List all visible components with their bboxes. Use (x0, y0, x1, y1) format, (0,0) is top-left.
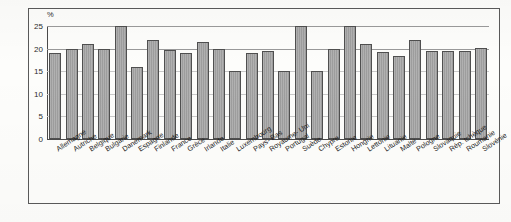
y-tick-label: 20 (34, 44, 43, 53)
bar-slot (325, 26, 341, 139)
bar-slot (178, 26, 194, 139)
bar-slot (145, 26, 161, 139)
bar-slot (80, 26, 96, 139)
bar (311, 71, 323, 139)
bar-slot (47, 26, 63, 139)
bar-slot (391, 26, 407, 139)
bar (213, 49, 225, 139)
bar (49, 53, 61, 139)
bar-slot (473, 26, 489, 139)
bar-slot (407, 26, 423, 139)
bar-slot (227, 26, 243, 139)
bar (360, 44, 372, 139)
x-label-slot: Lettonie (358, 141, 374, 201)
bar (82, 44, 94, 139)
bar (131, 67, 143, 139)
chart-figure: % 0510152025 AllemagneAutricheBelgiqueBu… (0, 0, 511, 222)
bar-slot (456, 26, 472, 139)
bar (442, 51, 454, 139)
bar-slot (342, 26, 358, 139)
bar-slot (113, 26, 129, 139)
bar-slot (162, 26, 178, 139)
x-label-slot: Espagne (129, 141, 145, 201)
bar (426, 51, 438, 139)
bar (147, 40, 159, 139)
x-label-slot: Irlande (194, 141, 210, 201)
x-label-slot: Roumanie (456, 141, 472, 201)
bar (409, 40, 421, 139)
bar-slot (211, 26, 227, 139)
bar (180, 53, 192, 139)
bar (344, 26, 356, 139)
x-label-slot: Estonie (325, 141, 341, 201)
bar (377, 52, 389, 139)
bar (197, 42, 209, 139)
bar (229, 71, 241, 139)
y-tick-label: 0 (39, 135, 43, 144)
bar (98, 49, 110, 139)
x-label-slot: France (162, 141, 178, 201)
bar-slot (63, 26, 79, 139)
bar-slot (375, 26, 391, 139)
bar (393, 56, 405, 139)
x-label-slot: Royaume- Uni (260, 141, 276, 201)
bar-slot (276, 26, 292, 139)
x-label-slot: Malte (391, 141, 407, 201)
x-label-slot: Grèce (178, 141, 194, 201)
bar-slot (96, 26, 112, 139)
x-label-slot: Autriche (63, 141, 79, 201)
x-label-slot: Pays- Bas (244, 141, 260, 201)
bar (115, 26, 127, 139)
bar-slot (260, 26, 276, 139)
y-tick-label: 5 (39, 112, 43, 121)
x-label-slot: Pologne (407, 141, 423, 201)
x-axis-labels: AllemagneAutricheBelgiqueBulgarieDanemar… (47, 141, 489, 201)
bar-slot (129, 26, 145, 139)
bar (459, 51, 471, 139)
x-label-slot: Rép. tchèque (440, 141, 456, 201)
bar (246, 53, 258, 139)
x-label-slot: Finlande (145, 141, 161, 201)
x-label-slot: Italie (211, 141, 227, 201)
x-label-slot: Slovaquie (424, 141, 440, 201)
x-label-slot: Portugal (276, 141, 292, 201)
y-tick-label: 15 (34, 67, 43, 76)
x-label-slot: Slovénie (473, 141, 489, 201)
x-label-slot: Chypre (309, 141, 325, 201)
plot-area: 0510152025 (47, 26, 489, 139)
bar-slot (194, 26, 210, 139)
y-tick-label: 10 (34, 89, 43, 98)
y-axis-unit-label: % (47, 10, 54, 19)
x-label-slot: Lituanie (375, 141, 391, 201)
x-label-slot: Hongrie (342, 141, 358, 201)
bar-slot (440, 26, 456, 139)
bar (164, 50, 176, 139)
bar (328, 49, 340, 139)
x-label-slot: Danemark (113, 141, 129, 201)
bar (66, 49, 78, 139)
bar-slot (424, 26, 440, 139)
bar-slot (244, 26, 260, 139)
x-label-slot: Luxembourg (227, 141, 243, 201)
x-label-slot: Suède (293, 141, 309, 201)
x-label-slot: Belgique (80, 141, 96, 201)
bar-series (47, 26, 489, 139)
bar-slot (358, 26, 374, 139)
x-label-slot: Allemagne (47, 141, 63, 201)
y-tick-label: 25 (34, 22, 43, 31)
x-label-slot: Bulgarie (96, 141, 112, 201)
bar-slot (309, 26, 325, 139)
